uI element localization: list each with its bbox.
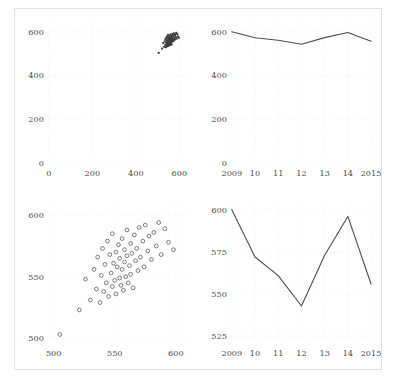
svg-text:400: 400 (211, 70, 227, 80)
svg-text:575: 575 (211, 247, 227, 257)
figure-card: 02004006000200400600 0200400600200910111… (14, 8, 382, 370)
svg-text:14: 14 (343, 348, 353, 358)
svg-text:600: 600 (28, 210, 44, 220)
svg-text:0: 0 (222, 158, 227, 168)
top-right-plot: 0200400600200910111213142015 (198, 9, 381, 189)
svg-text:2009: 2009 (221, 348, 242, 358)
small-multiples-grid: 02004006000200400600 0200400600200910111… (15, 9, 381, 369)
svg-text:14: 14 (343, 168, 353, 178)
svg-text:600: 600 (211, 205, 227, 215)
svg-text:2009: 2009 (221, 168, 242, 178)
panel-top-right-line-full-range: 0200400600200910111213142015 (198, 9, 381, 189)
panel-bottom-left-scatter-zoomed: 500550600500550600 (15, 189, 198, 369)
svg-text:550: 550 (107, 348, 123, 358)
svg-text:500: 500 (46, 348, 62, 358)
svg-text:550: 550 (211, 289, 227, 299)
svg-text:2015: 2015 (361, 168, 381, 178)
panel-top-left-scatter-full-range: 02004006000200400600 (15, 9, 198, 189)
svg-text:12: 12 (296, 168, 306, 178)
svg-text:600: 600 (172, 168, 188, 178)
svg-text:11: 11 (273, 168, 283, 178)
top-left-plot: 02004006000200400600 (15, 9, 198, 189)
panel-bottom-right-line-zoomed: 525550575600200910111213142015 (198, 189, 381, 369)
bottom-right-plot: 525550575600200910111213142015 (198, 189, 381, 369)
svg-text:600: 600 (28, 27, 44, 37)
svg-text:400: 400 (28, 70, 44, 80)
bottom-left-plot: 500550600500550600 (15, 189, 198, 369)
svg-text:10: 10 (250, 348, 260, 358)
svg-text:13: 13 (319, 168, 329, 178)
svg-text:0: 0 (46, 168, 51, 178)
svg-text:12: 12 (296, 348, 306, 358)
svg-text:200: 200 (211, 114, 227, 124)
svg-text:500: 500 (28, 333, 44, 343)
svg-text:2015: 2015 (361, 348, 381, 358)
svg-text:600: 600 (168, 348, 184, 358)
svg-text:13: 13 (319, 348, 329, 358)
svg-text:525: 525 (211, 331, 227, 341)
svg-text:200: 200 (85, 168, 101, 178)
svg-text:600: 600 (211, 27, 227, 37)
svg-text:550: 550 (28, 272, 44, 282)
svg-text:0: 0 (39, 158, 44, 168)
svg-text:10: 10 (250, 168, 260, 178)
svg-text:200: 200 (28, 114, 44, 124)
svg-text:400: 400 (128, 168, 144, 178)
svg-text:11: 11 (273, 348, 283, 358)
